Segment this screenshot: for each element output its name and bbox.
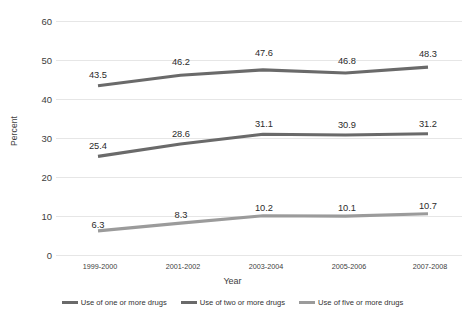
data-label: 48.3 — [405, 49, 451, 59]
data-label: 8.3 — [158, 210, 204, 220]
data-label: 30.9 — [324, 120, 370, 130]
data-label: 31.1 — [241, 119, 287, 129]
data-label: 6.3 — [75, 220, 121, 230]
legend-item-five-or-more[interactable]: Use of five or more drugs — [299, 298, 403, 307]
line-chart: Percent 60 50 40 30 20 10 0 43.5 46.2 47… — [0, 0, 465, 318]
x-axis-title: Year — [0, 276, 465, 286]
x-axis-tick-2007-2008: 2007-2008 — [385, 262, 465, 271]
legend-label: Use of two or more drugs — [200, 298, 285, 307]
x-axis-tick-2005-2006: 2005-2006 — [304, 262, 394, 271]
series-line-one-or-more — [98, 67, 428, 86]
x-axis-tick-2001-2002: 2001-2002 — [138, 262, 228, 271]
x-axis-tick-1999-2000: 1999-2000 — [55, 262, 145, 271]
chart-legend: Use of one or more drugs Use of two or m… — [0, 298, 465, 307]
data-label: 10.1 — [324, 203, 370, 213]
series-line-two-or-more — [98, 134, 428, 157]
legend-line-icon — [62, 301, 78, 303]
data-label: 25.4 — [75, 141, 121, 151]
x-axis-tick-2003-2004: 2003-2004 — [221, 262, 311, 271]
data-label: 47.6 — [241, 48, 287, 58]
data-label: 10.2 — [241, 203, 287, 213]
data-label: 46.8 — [324, 56, 370, 66]
legend-item-one-or-more[interactable]: Use of one or more drugs — [62, 298, 167, 307]
legend-line-icon — [181, 301, 197, 303]
legend-label: Use of one or more drugs — [81, 298, 167, 307]
data-label: 46.2 — [158, 57, 204, 67]
data-label: 28.6 — [158, 129, 204, 139]
data-label: 43.5 — [75, 70, 121, 80]
data-label: 10.7 — [405, 201, 451, 211]
legend-item-two-or-more[interactable]: Use of two or more drugs — [181, 298, 285, 307]
legend-line-icon — [299, 301, 315, 303]
legend-label: Use of five or more drugs — [318, 298, 403, 307]
data-label: 31.2 — [405, 119, 451, 129]
